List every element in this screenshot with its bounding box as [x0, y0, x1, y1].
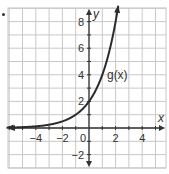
x-tick-label: 4 — [139, 132, 145, 144]
x-axis-label: x — [157, 111, 165, 125]
exponential-function-graph: −4−2024−22468 g(x) x y — [0, 0, 169, 174]
y-tick-label: 2 — [78, 95, 84, 107]
curve-label: g(x) — [107, 68, 128, 82]
x-tick-label: −2 — [56, 132, 69, 144]
x-tick-label: 0 — [80, 132, 86, 144]
y-tick-label: −2 — [71, 149, 84, 161]
y-tick-label: 6 — [78, 42, 84, 54]
y-tick-label: 8 — [78, 16, 84, 28]
y-tick-label: 4 — [78, 69, 84, 81]
x-tick-label: −4 — [30, 132, 43, 144]
y-axis-label: y — [92, 7, 100, 21]
curve-arrowheads — [7, 6, 121, 131]
x-tick-label: 2 — [113, 132, 119, 144]
